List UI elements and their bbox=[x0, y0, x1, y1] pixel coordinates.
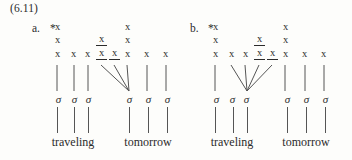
stem-line bbox=[167, 107, 168, 133]
panel-b-word-labels: traveling tomorrow bbox=[182, 132, 352, 152]
panel-a-lines-svg bbox=[8, 64, 184, 94]
syllable-sigma: σ bbox=[240, 92, 253, 107]
syllable-sigma: σ bbox=[210, 92, 223, 107]
mora-x-underlined: x bbox=[254, 47, 265, 60]
mora-x: x bbox=[280, 20, 291, 33]
mora-x: x bbox=[122, 20, 133, 33]
stem-line bbox=[88, 107, 89, 133]
association-line-diagonal bbox=[247, 65, 259, 91]
panel-b-lines-svg bbox=[182, 64, 352, 94]
mora-x: x bbox=[280, 47, 291, 60]
mora-x: x bbox=[122, 33, 133, 46]
panel-b-syllable-stems bbox=[182, 107, 352, 133]
mora-x: x bbox=[160, 47, 171, 60]
mora-x: x bbox=[318, 47, 329, 60]
stem-line bbox=[233, 107, 234, 133]
stem-line bbox=[287, 107, 288, 133]
syllable-sigma: σ bbox=[123, 92, 136, 107]
syllable-sigma: σ bbox=[300, 92, 313, 107]
panel-a: a. * x x x x x x x x x x x x x bbox=[8, 18, 184, 160]
mora-x-underlined: x bbox=[96, 47, 107, 60]
mora-x-underlined: x bbox=[267, 47, 278, 60]
word-label-tomorrow: tomorrow bbox=[261, 132, 351, 152]
panel-a-mora-tier-2: x x x bbox=[8, 33, 184, 46]
mora-x: x bbox=[226, 47, 237, 60]
panel-b-association-lines bbox=[182, 64, 352, 94]
panel-b-mora-tier-3: x x bbox=[182, 20, 352, 33]
stem-line bbox=[57, 107, 58, 133]
association-line-diagonal bbox=[114, 65, 129, 91]
panel-a-syllable-row: σ σ σ σ σ σ bbox=[8, 92, 184, 107]
panel-a-mora-tier-1: x x x x x x x x bbox=[8, 47, 184, 60]
panel-b: b. * x x x x x x x x x x x x x bbox=[182, 18, 352, 160]
stem-line bbox=[74, 107, 75, 133]
mora-x: x bbox=[68, 47, 79, 60]
stem-line bbox=[148, 107, 149, 133]
panel-b-mora-grid: x x x x x x x x x x x x x bbox=[182, 20, 352, 66]
stem-line bbox=[129, 107, 130, 133]
word-label-tomorrow: tomorrow bbox=[103, 132, 193, 152]
mora-x: x bbox=[52, 47, 63, 60]
panel-a-mora-tier-3: x x bbox=[8, 20, 184, 33]
mora-x-underlined: x bbox=[96, 33, 107, 46]
syllable-sigma: σ bbox=[281, 92, 294, 107]
mora-x-underlined: x bbox=[254, 33, 265, 46]
example-number: (6.11) bbox=[10, 2, 38, 14]
syllable-sigma: σ bbox=[226, 92, 239, 107]
syllable-sigma: σ bbox=[52, 92, 65, 107]
mora-x: x bbox=[210, 20, 221, 33]
syllable-sigma: σ bbox=[319, 92, 332, 107]
mora-x: x bbox=[52, 20, 63, 33]
moraic-structure-figure: (6.11) a. * x x x x x x x x x x x bbox=[0, 0, 352, 160]
syllable-sigma: σ bbox=[142, 92, 155, 107]
mora-x: x bbox=[280, 33, 291, 46]
panel-a-word-labels: traveling tomorrow bbox=[8, 132, 184, 152]
mora-x: x bbox=[210, 47, 221, 60]
mora-x: x bbox=[52, 33, 63, 46]
association-line-diagonal bbox=[247, 65, 272, 91]
syllable-sigma: σ bbox=[161, 92, 174, 107]
panel-a-mora-grid: x x x x x x x x x x x x x bbox=[8, 20, 184, 66]
mora-x: x bbox=[210, 33, 221, 46]
stem-line bbox=[306, 107, 307, 133]
mora-x: x bbox=[299, 47, 310, 60]
mora-x-underlined: x bbox=[109, 47, 120, 60]
mora-x: x bbox=[141, 47, 152, 60]
mora-x: x bbox=[240, 47, 251, 60]
association-line-diagonal bbox=[245, 65, 247, 91]
panel-b-mora-tier-1: x x x x x x x x bbox=[182, 47, 352, 60]
stem-line bbox=[325, 107, 326, 133]
panel-a-syllable-stems bbox=[8, 107, 184, 133]
stem-line bbox=[247, 107, 248, 133]
panel-a-association-lines bbox=[8, 64, 184, 94]
panel-b-syllable-row: σ σ σ σ σ σ bbox=[182, 92, 352, 107]
panel-b-mora-tier-2: x x x bbox=[182, 33, 352, 46]
stem-line bbox=[215, 107, 216, 133]
syllable-sigma: σ bbox=[82, 92, 95, 107]
mora-x: x bbox=[82, 47, 93, 60]
mora-x: x bbox=[122, 47, 133, 60]
association-line-diagonal bbox=[231, 65, 247, 91]
syllable-sigma: σ bbox=[68, 92, 81, 107]
association-line-diagonal bbox=[101, 65, 129, 91]
